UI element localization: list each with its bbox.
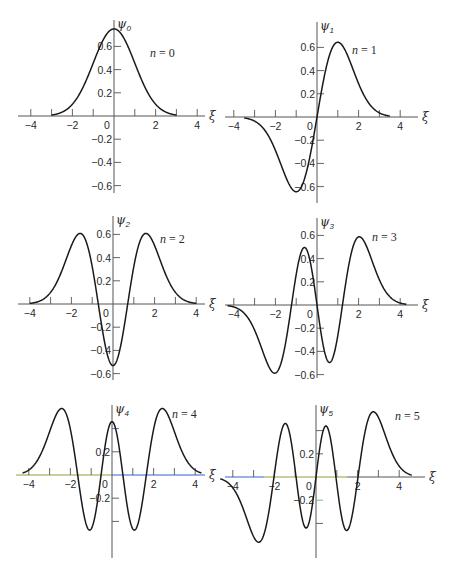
panel-title: n = 3: [372, 230, 397, 244]
x-axis-label: ξ: [209, 468, 217, 482]
x-axis-label: ξ: [209, 109, 217, 123]
y-tick-label: 0.2: [300, 88, 315, 100]
x-axis-label: ξ: [422, 110, 430, 124]
y-axis-label: ψ1: [320, 19, 334, 35]
y-axis-label: ψ2: [116, 213, 130, 229]
y-tick-label: 0.4: [96, 252, 111, 264]
y-axis-label: ψ5: [319, 402, 333, 418]
y-tick-label: −0.2: [89, 492, 110, 504]
panel-n2: ξ−4−20240.60.40.2−0.2−0.4−0.6n = 2ψ2: [18, 213, 217, 380]
y-tick-label: 0.6: [96, 228, 111, 240]
x-tick-label: 4: [396, 480, 402, 492]
panel-title: n = 0: [150, 46, 175, 60]
x-tick-label: −2: [65, 307, 77, 319]
y-tick-label: 0.2: [97, 87, 112, 99]
y-tick-label: −0.4: [294, 157, 315, 169]
y-axis-label: ψ0: [117, 17, 131, 33]
x-tick-label: 4: [193, 307, 199, 319]
y-tick-label: 0.2: [299, 448, 314, 460]
y-tick-label: −0.2: [294, 322, 315, 334]
y-axis-label: ψ4: [115, 402, 129, 418]
x-tick-label: −4: [25, 119, 37, 131]
x-tick-label: −4: [228, 308, 240, 320]
x-tick-label: −4: [24, 307, 36, 319]
x-tick-label: −2: [268, 480, 280, 492]
y-axis-label: ψ3: [320, 215, 334, 231]
y-tick-label: 0.4: [300, 65, 315, 77]
x-tick-label: −2: [269, 308, 281, 320]
x-tick-label: −2: [269, 120, 281, 132]
y-tick-label: 0.6: [300, 41, 315, 53]
x-axis-label: ξ: [422, 298, 430, 312]
y-tick-label: 0.2: [95, 446, 110, 458]
x-tick-label: 4: [397, 120, 403, 132]
y-tick-label: −0.4: [91, 156, 112, 168]
panel-n4: ξ−4−20240.2−0.2n = 4ψ4: [16, 402, 217, 558]
y-tick-label: −0.2: [293, 494, 314, 506]
x-axis-label: ξ: [429, 470, 437, 484]
x-tick-label: −4: [23, 478, 35, 490]
x-tick-label: 0: [307, 120, 313, 132]
y-tick-label: −0.6: [91, 180, 112, 192]
x-tick-label: 0: [104, 119, 110, 131]
x-tick-label: −4: [228, 120, 240, 132]
x-tick-label: 2: [152, 307, 158, 319]
x-tick-label: 0: [307, 308, 313, 320]
x-tick-label: −4: [227, 480, 239, 492]
y-tick-label: −0.6: [90, 368, 111, 380]
panel-title: n = 1: [352, 43, 377, 57]
panel-title: n = 2: [160, 232, 185, 246]
x-tick-label: 2: [151, 478, 157, 490]
y-tick-label: −0.4: [294, 345, 315, 357]
x-tick-label: 2: [153, 119, 159, 131]
x-tick-label: 4: [192, 478, 198, 490]
panel-title: n = 4: [172, 407, 197, 421]
x-tick-label: 4: [194, 119, 200, 131]
y-tick-label: 0.2: [96, 275, 111, 287]
panel-n3: ξ−4−20240.60.40.2−0.2−0.4−0.6n = 3ψ3: [225, 215, 430, 381]
y-tick-label: −0.6: [294, 369, 315, 381]
x-tick-label: 0: [103, 307, 109, 319]
wavefunction-figure: ξ−4−20240.60.40.2−0.2−0.4−0.6n = 0ψ0 ξ−4…: [0, 0, 450, 568]
panel-title: n = 5: [395, 409, 420, 423]
x-tick-label: −2: [64, 478, 76, 490]
y-tick-label: 0.6: [300, 229, 315, 241]
x-tick-label: 2: [356, 120, 362, 132]
panel-n1: ξ−4−20240.60.40.2−0.2−0.4−0.6n = 1ψ1: [225, 19, 430, 203]
x-tick-label: 4: [397, 308, 403, 320]
y-tick-label: −0.2: [91, 133, 112, 145]
panel-n0: ξ−4−20240.60.40.2−0.2−0.4−0.6n = 0ψ0: [18, 17, 217, 193]
panel-n5: ξ−4−20240.2−0.2n = 5ψ5: [220, 402, 437, 558]
y-tick-label: 0.4: [97, 64, 112, 76]
x-tick-label: −2: [66, 119, 78, 131]
x-tick-label: 0: [102, 478, 108, 490]
x-tick-label: 0: [306, 480, 312, 492]
x-tick-label: 2: [356, 308, 362, 320]
x-axis-label: ξ: [209, 297, 217, 311]
